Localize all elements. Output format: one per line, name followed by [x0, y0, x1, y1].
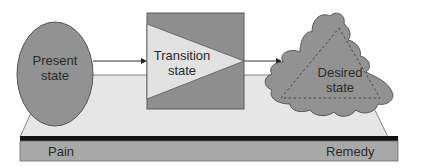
transition-label-line1: Transition	[149, 48, 215, 63]
platform-edge-bar	[20, 136, 398, 141]
desired-label-line2: state	[305, 80, 375, 95]
transition-label-line2: state	[149, 63, 215, 78]
remedy-label: Remedy	[326, 144, 374, 159]
present-label-line1: Present	[22, 53, 88, 68]
pain-label: Pain	[48, 144, 74, 159]
arrowhead-icon	[141, 58, 147, 64]
present-label-line2: state	[22, 68, 88, 83]
desired-state-label: Desired state	[305, 65, 375, 95]
present-state-label: Present state	[22, 53, 88, 83]
desired-label-line1: Desired	[305, 65, 375, 80]
transition-state-label: Transition state	[149, 48, 215, 78]
